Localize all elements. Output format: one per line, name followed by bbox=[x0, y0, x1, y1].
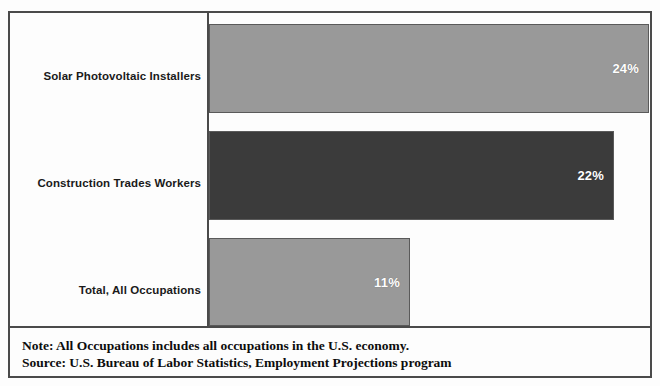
bar-value-label-construction-trades-workers: 22% bbox=[577, 168, 604, 183]
value-axis-line bbox=[10, 326, 650, 328]
category-label-total-all-occupations: Total, All Occupations bbox=[10, 283, 201, 297]
category-label-group: Solar Photovoltaic Installers Constructi… bbox=[10, 12, 201, 326]
bar-solar-photovoltaic-installers[interactable]: 24% bbox=[209, 24, 649, 113]
bar-row-solar-photovoltaic-installers: 24% bbox=[209, 24, 650, 113]
bar-row-construction-trades-workers: 22% bbox=[209, 131, 650, 220]
category-label-solar-photovoltaic-installers: Solar Photovoltaic Installers bbox=[10, 69, 201, 83]
bar-construction-trades-workers[interactable]: 22% bbox=[209, 131, 614, 220]
bar-row-total-all-occupations: 11% bbox=[209, 238, 650, 326]
chart-figure: Solar Photovoltaic Installers Constructi… bbox=[0, 0, 660, 386]
footnote-source: Source: U.S. Bureau of Labor Statistics,… bbox=[22, 355, 632, 372]
bar-value-label-solar-photovoltaic-installers: 24% bbox=[612, 61, 639, 76]
bar-total-all-occupations[interactable]: 11% bbox=[209, 238, 410, 326]
bar-value-label-total-all-occupations: 11% bbox=[374, 275, 400, 290]
footnote-block: Note: All Occupations includes all occup… bbox=[22, 338, 632, 371]
footnote-note: Note: All Occupations includes all occup… bbox=[22, 338, 632, 355]
bar-group: 24% 22% 11% bbox=[209, 12, 650, 326]
category-label-construction-trades-workers: Construction Trades Workers bbox=[10, 176, 201, 190]
plot-area: Solar Photovoltaic Installers Constructi… bbox=[10, 12, 650, 328]
